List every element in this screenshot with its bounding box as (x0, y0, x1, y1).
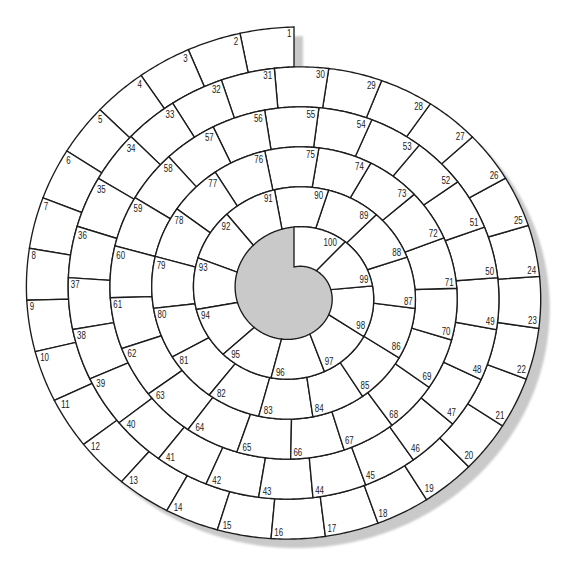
cell-number: 71 (445, 276, 454, 288)
cell-number: 4 (137, 78, 142, 90)
cell-number: 47 (447, 406, 456, 418)
cell-number: 9 (30, 300, 35, 312)
board-cell: 43 (259, 458, 313, 499)
cell-number: 57 (205, 131, 214, 143)
cell-number: 13 (129, 474, 138, 486)
cell-number: 88 (392, 246, 401, 258)
board-cell: 55 (265, 107, 319, 150)
cell-number: 45 (366, 469, 375, 481)
cell-number: 40 (127, 418, 136, 430)
cell-number: 11 (61, 398, 70, 410)
cell-number: 14 (174, 501, 183, 513)
cell-number: 72 (429, 227, 438, 239)
cell-number: 82 (217, 387, 226, 399)
cell-number: 65 (243, 441, 252, 453)
cell-number: 18 (378, 507, 387, 519)
cell-number: 2 (234, 35, 239, 47)
cell-number: 22 (517, 363, 526, 375)
cell-number: 3 (183, 52, 188, 64)
board-cell: 37 (68, 278, 114, 330)
cell-number: 91 (264, 192, 273, 204)
board-cell: 30 (274, 67, 328, 108)
cell-number: 10 (40, 351, 49, 363)
cell-number: 46 (411, 442, 420, 454)
cell-number: 21 (496, 409, 505, 421)
board-cell: 8 (26, 248, 70, 300)
cell-number: 69 (423, 370, 432, 382)
cell-number: 34 (127, 142, 136, 154)
cell-number: 59 (134, 202, 143, 214)
cell-number: 87 (404, 295, 413, 307)
cell-number: 29 (367, 79, 376, 91)
cell-number: 53 (403, 140, 412, 152)
cell-number: 60 (116, 249, 125, 261)
cell-number: 28 (414, 100, 423, 112)
cell-number: 89 (360, 209, 369, 221)
cell-number: 90 (314, 189, 323, 201)
cell-number: 66 (293, 446, 302, 458)
cell-number: 20 (464, 449, 473, 461)
cell-number: 8 (31, 249, 36, 261)
cell-number: 48 (473, 363, 482, 375)
cell-number: 12 (91, 440, 100, 452)
cell-number: 70 (442, 325, 451, 337)
cell-number: 61 (113, 298, 122, 310)
cell-number: 75 (306, 148, 315, 160)
cell-number: 24 (527, 264, 536, 276)
cell-number: 31 (263, 69, 272, 81)
cell-number: 92 (222, 220, 231, 232)
cell-number: 98 (356, 319, 365, 331)
cell-number: 42 (212, 474, 221, 486)
cell-number: 78 (175, 214, 184, 226)
cell-number: 43 (263, 485, 272, 497)
cell-number: 39 (96, 377, 105, 389)
cell-number: 36 (78, 229, 87, 241)
cell-number: 25 (514, 214, 523, 226)
cell-number: 100 (324, 236, 337, 248)
cell-number: 17 (327, 522, 336, 534)
cell-number: 86 (392, 340, 401, 352)
cell-number: 52 (441, 174, 450, 186)
cell-number: 7 (44, 200, 49, 212)
cell-number: 35 (97, 183, 106, 195)
cell-number: 44 (315, 484, 324, 496)
cell-number: 41 (166, 451, 175, 463)
cell-number: 32 (212, 83, 221, 95)
cell-number: 6 (66, 154, 71, 166)
cell-number: 33 (166, 108, 175, 120)
cell-number: 97 (325, 355, 334, 367)
cell-number: 62 (128, 347, 137, 359)
cell-number: 93 (199, 261, 208, 273)
cell-number: 83 (264, 404, 273, 416)
cell-number: 38 (77, 329, 86, 341)
cell-number: 80 (158, 308, 167, 320)
cell-number: 74 (355, 160, 364, 172)
cell-number: 85 (361, 379, 370, 391)
cell-number: 68 (389, 408, 398, 420)
board-cell: 49 (455, 278, 499, 330)
spiral-game-board: 1234567891011121314151617181920212223242… (0, 0, 569, 569)
cell-number: 23 (528, 314, 537, 326)
cell-number: 96 (276, 366, 285, 378)
cell-number: 19 (425, 482, 434, 494)
cell-number: 30 (316, 68, 325, 80)
cell-number: 76 (254, 153, 263, 165)
cell-number: 77 (208, 177, 217, 189)
cell-number: 1 (287, 27, 292, 39)
cell-number: 27 (456, 130, 465, 142)
cell-number: 73 (398, 187, 407, 199)
cell-number: 81 (180, 354, 189, 366)
board-cell: 23 (498, 276, 541, 328)
board-cell: 16 (271, 497, 325, 539)
cell-number: 79 (157, 259, 166, 271)
cell-number: 49 (486, 315, 495, 327)
cell-number: 26 (490, 169, 499, 181)
cell-number: 56 (254, 112, 263, 124)
game-board-page: 1234567891011121314151617181920212223242… (0, 0, 569, 569)
board-cell: 1 (240, 27, 294, 73)
cell-number: 95 (231, 348, 240, 360)
cell-number: 67 (345, 434, 354, 446)
cell-number: 84 (315, 402, 324, 414)
cell-number: 51 (470, 216, 479, 228)
cell-number: 64 (195, 421, 204, 433)
